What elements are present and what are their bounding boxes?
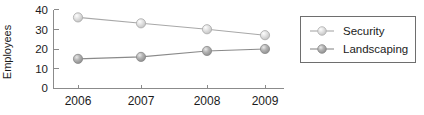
data-point[interactable] — [136, 52, 145, 61]
series-line-landscaping — [78, 49, 265, 59]
x-tick-label: 2009 — [252, 94, 279, 108]
data-point[interactable] — [260, 44, 269, 53]
y-tick-label: 10 — [35, 63, 48, 75]
legend-label-security: Security — [343, 25, 385, 37]
series-line-security — [78, 17, 265, 35]
legend-marker-security-icon — [318, 27, 327, 36]
y-axis-title-text: Employees — [1, 24, 13, 79]
x-tick-marks — [79, 85, 266, 89]
data-point[interactable] — [73, 54, 82, 63]
y-tick-label: 30 — [35, 24, 48, 36]
legend-marker-landscaping-icon — [318, 45, 327, 54]
x-tick-label: 2008 — [194, 94, 221, 108]
x-tick-label: 2007 — [128, 94, 155, 108]
data-point[interactable] — [260, 31, 269, 40]
series-security — [73, 13, 269, 40]
x-tick-labels: 2006 2007 2008 2009 — [65, 94, 279, 108]
data-point[interactable] — [202, 25, 211, 34]
series-landscaping — [73, 44, 269, 63]
legend-item-security[interactable]: Security — [310, 25, 385, 37]
legend-border — [301, 17, 416, 63]
data-point[interactable] — [73, 13, 82, 22]
y-tick-labels: 40 30 20 10 0 — [35, 4, 48, 94]
data-point[interactable] — [136, 19, 145, 28]
legend-label-landscaping: Landscaping — [343, 43, 408, 55]
y-tick-label: 40 — [35, 4, 48, 16]
y-tick-label: 0 — [42, 82, 48, 94]
y-axis-title: Employees — [1, 24, 13, 79]
y-tick-marks — [54, 10, 59, 89]
y-tick-label: 20 — [35, 43, 48, 55]
chart-figure: Employees 40 30 20 10 0 20 — [0, 0, 424, 115]
x-tick-label: 2006 — [65, 94, 92, 108]
series-layer — [73, 13, 269, 64]
line-chart: Employees 40 30 20 10 0 20 — [0, 0, 424, 115]
data-point[interactable] — [202, 46, 211, 55]
chart-legend: Security Landscaping — [301, 17, 416, 63]
